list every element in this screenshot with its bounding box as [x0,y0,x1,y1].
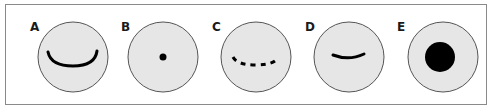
panel-c [221,22,291,92]
dot-mark [160,54,167,61]
panel-a [38,22,108,92]
filled-disc-mark [425,42,455,72]
panel-d [314,22,384,92]
circle-c [221,22,291,92]
panel-b [128,22,198,92]
diagram-canvas [0,0,493,110]
panel-e [408,22,478,92]
